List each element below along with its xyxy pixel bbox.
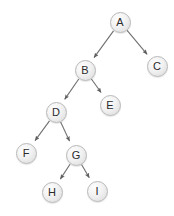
tree-edge-d-g [61,122,70,141]
tree-node-label: H [48,187,56,198]
tree-node-c[interactable]: C [147,56,168,77]
tree-node-label: E [106,100,113,111]
tree-edge-d-f [35,121,49,141]
tree-node-h[interactable]: H [42,182,63,203]
tree-node-label: D [52,107,60,118]
tree-node-d[interactable]: D [46,102,67,123]
tree-node-i[interactable]: I [87,181,108,202]
tree-node-b[interactable]: B [75,60,96,81]
tree-edge-g-h [60,164,70,179]
tree-node-label: C [153,61,161,72]
tree-node-label: I [95,186,98,197]
tree-diagram: ABCDEFGHI [0,0,174,216]
tree-edge-a-b [94,31,114,58]
tree-node-e[interactable]: E [100,95,121,116]
tree-edge-b-d [65,79,79,99]
tree-edge-g-i [82,165,90,178]
edge-layer [0,0,174,216]
tree-node-f[interactable]: F [16,143,37,164]
tree-node-a[interactable]: A [110,12,131,33]
tree-node-label: B [81,65,88,76]
tree-edge-b-e [91,79,101,93]
tree-node-g[interactable]: G [66,145,87,166]
tree-node-label: A [116,17,123,28]
tree-node-label: F [23,148,30,159]
tree-node-label: G [72,150,81,161]
tree-edge-a-c [127,30,147,54]
